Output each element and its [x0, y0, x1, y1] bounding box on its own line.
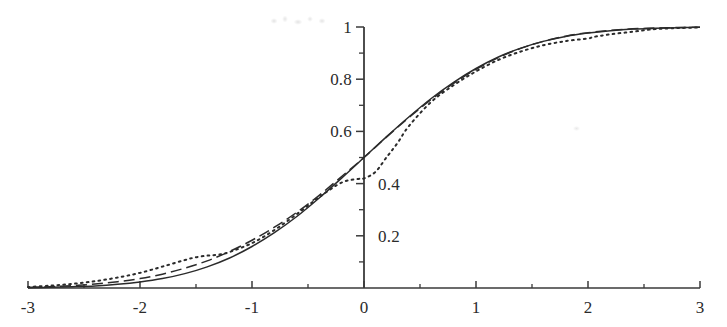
y-axis-tick-label: 0.8	[330, 71, 352, 88]
x-axis-tick-label: -2	[133, 299, 148, 316]
x-axis-tick-label: 2	[584, 299, 593, 316]
x-axis-tick-label: 3	[696, 299, 705, 316]
x-axis-tick-label: -3	[21, 299, 36, 316]
x-axis-tick-label: -1	[245, 299, 260, 316]
y-axis-tick-label: 0.2	[378, 227, 400, 244]
y-axis-tick-label: 1	[343, 19, 352, 36]
cdf-comparison-figure: -3-2-101230.20.40.60.81	[0, 0, 727, 327]
x-axis-tick-label: 0	[360, 299, 369, 316]
y-axis-tick-label: 0.6	[330, 123, 352, 140]
x-axis-tick-label: 1	[472, 299, 481, 316]
plot-canvas	[0, 0, 727, 327]
y-axis-tick-label: 0.4	[378, 175, 400, 192]
